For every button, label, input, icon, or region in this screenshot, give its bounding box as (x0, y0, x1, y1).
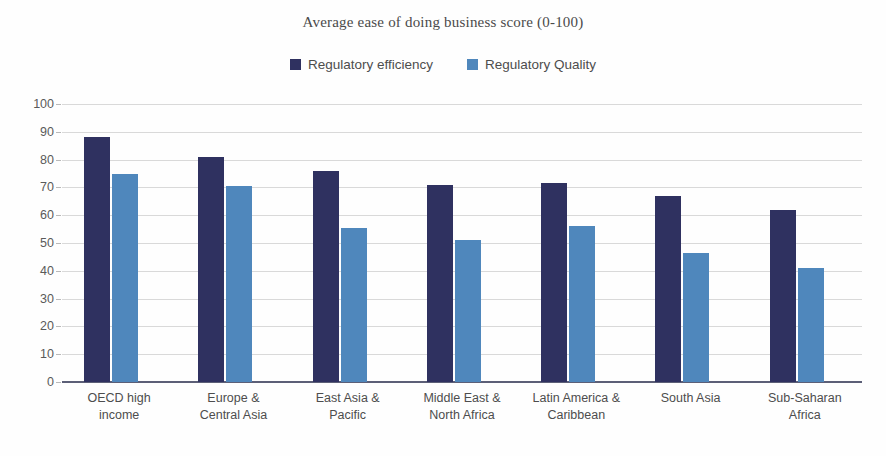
x-tick-label-line: Europe & (176, 390, 290, 407)
y-tick-label: 60 (0, 208, 54, 222)
x-tick-label-line: Africa (748, 407, 862, 424)
x-tick-label-line: income (62, 407, 176, 424)
y-tick-mark (56, 243, 61, 244)
bar-group (405, 104, 519, 382)
y-tick-label: 40 (0, 264, 54, 278)
bar-1[interactable] (798, 268, 824, 382)
chart-container: Average ease of doing business score (0-… (0, 0, 886, 456)
x-tick-label: OECD highincome (62, 390, 176, 424)
x-tick-label-line: Middle East & (405, 390, 519, 407)
x-tick-label: East Asia &Pacific (291, 390, 405, 424)
y-tick-mark (56, 215, 61, 216)
x-tick-label: Middle East &North Africa (405, 390, 519, 424)
y-tick-mark (56, 326, 61, 327)
y-tick-label: 30 (0, 292, 54, 306)
x-axis-labels: OECD highincomeEurope &Central AsiaEast … (62, 390, 862, 450)
y-tick-label: 80 (0, 153, 54, 167)
bar-1[interactable] (455, 240, 481, 382)
y-tick-mark (56, 104, 61, 105)
legend-label: Regulatory efficiency (308, 57, 433, 72)
bar-group (519, 104, 633, 382)
chart-legend: Regulatory efficiencyRegulatory Quality (0, 57, 886, 72)
bar-group (748, 104, 862, 382)
x-tick-label-line: North Africa (405, 407, 519, 424)
y-axis: 1009080706050403020100 (0, 104, 54, 382)
y-tick-mark (56, 187, 61, 188)
x-tick-label-line: Pacific (291, 407, 405, 424)
bar-0[interactable] (770, 210, 796, 382)
y-tick-mark (56, 299, 61, 300)
y-tick-mark (56, 132, 61, 133)
bar-0[interactable] (541, 183, 567, 382)
x-tick-label: South Asia (633, 390, 747, 407)
legend-swatch-icon (290, 59, 301, 70)
x-tick-label: Latin America &Caribbean (519, 390, 633, 424)
bar-group (176, 104, 290, 382)
y-tick-label: 70 (0, 180, 54, 194)
y-tick-label: 50 (0, 236, 54, 250)
bar-1[interactable] (226, 186, 252, 382)
bar-1[interactable] (683, 253, 709, 382)
legend-item-0[interactable]: Regulatory efficiency (290, 57, 433, 72)
bar-0[interactable] (198, 157, 224, 382)
x-tick-label-line: OECD high (62, 390, 176, 407)
chart-title: Average ease of doing business score (0-… (0, 14, 886, 31)
legend-label: Regulatory Quality (485, 57, 596, 72)
bar-0[interactable] (84, 137, 110, 382)
x-tick-label: Sub-SaharanAfrica (748, 390, 862, 424)
bar-1[interactable] (341, 228, 367, 382)
y-tick-label: 100 (0, 97, 54, 111)
y-tick-label: 10 (0, 347, 54, 361)
x-tick-label-line: Caribbean (519, 407, 633, 424)
bar-1[interactable] (112, 174, 138, 383)
y-tick-label: 20 (0, 319, 54, 333)
bar-0[interactable] (655, 196, 681, 382)
y-tick-mark (56, 271, 61, 272)
y-tick-mark (56, 354, 61, 355)
bar-group (291, 104, 405, 382)
y-tick-label: 90 (0, 125, 54, 139)
bar-group (62, 104, 176, 382)
x-tick-label: Europe &Central Asia (176, 390, 290, 424)
bar-1[interactable] (569, 226, 595, 382)
x-tick-label-line: Sub-Saharan (748, 390, 862, 407)
y-tick-label: 0 (0, 375, 54, 389)
y-tick-mark (56, 160, 61, 161)
bars-layer (62, 104, 862, 382)
bar-0[interactable] (313, 171, 339, 382)
x-tick-label-line: South Asia (633, 390, 747, 407)
bar-group (633, 104, 747, 382)
x-tick-label-line: Central Asia (176, 407, 290, 424)
bar-0[interactable] (427, 185, 453, 382)
x-tick-label-line: Latin America & (519, 390, 633, 407)
legend-item-1[interactable]: Regulatory Quality (467, 57, 596, 72)
legend-swatch-icon (467, 59, 478, 70)
x-tick-label-line: East Asia & (291, 390, 405, 407)
y-tick-mark (56, 382, 61, 383)
